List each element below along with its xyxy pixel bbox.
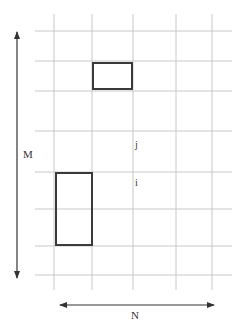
highlighted-rectangles <box>56 63 132 245</box>
n-axis-label: N <box>131 310 139 321</box>
grid-diagram <box>0 0 238 333</box>
m-axis-label: M <box>23 149 33 160</box>
grid-vertical-lines <box>54 14 212 290</box>
i-label: i <box>135 178 138 188</box>
top-rectangle <box>93 63 132 89</box>
j-label: j <box>135 140 138 150</box>
